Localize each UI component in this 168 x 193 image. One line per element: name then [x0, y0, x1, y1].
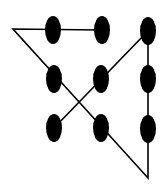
dot-r1c1: [45, 16, 61, 44]
dot-r1c3: [140, 17, 156, 45]
dot-r3c1: [46, 114, 62, 142]
dot-grid: [45, 16, 156, 143]
dot-r3c2: [93, 114, 109, 142]
dot-r1c2: [94, 16, 110, 44]
connecting-path: [13, 29, 148, 178]
dot-r3c3: [140, 115, 156, 143]
dot-r2c3: [140, 65, 156, 93]
dot-r2c2: [93, 65, 109, 93]
nine-dot-diagram: [0, 0, 168, 193]
dot-r2c1: [46, 65, 62, 93]
